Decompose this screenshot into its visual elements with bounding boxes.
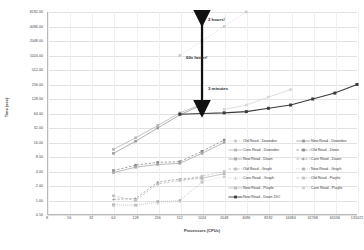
- data-point-marker: [302, 177, 305, 180]
- legend-label: New Read - Down: [243, 157, 273, 161]
- x-axis-tick-label: 64: [111, 216, 115, 220]
- annotation-three-minutes: 3 minutes: [208, 86, 228, 91]
- x-axis-tick-label: 512: [177, 216, 183, 220]
- legend-key-swatch: [296, 138, 311, 144]
- y-axis-tick-label: 2048.00: [30, 39, 43, 43]
- x-axis-tick-label: 32768: [308, 216, 318, 220]
- legend-key-swatch: [296, 156, 311, 162]
- legend-key-swatch: [296, 166, 311, 172]
- legend-row: New Read - PurpleCore Read - Purple: [228, 183, 364, 192]
- y-axis-tick-label: 4.00: [36, 170, 43, 174]
- data-point-marker: [234, 196, 237, 199]
- y-axis-tick-label: 1.00: [36, 199, 43, 203]
- x-axis-tick-label: 8192: [264, 216, 272, 220]
- legend-item[interactable]: New Read - Purple: [228, 185, 296, 191]
- y-axis-tick-label: 0.50: [36, 213, 43, 217]
- x-axis-tick-label: 131072: [351, 216, 363, 220]
- legend-item[interactable]: Core Read - Graph: [228, 175, 296, 181]
- data-point-marker: [302, 139, 305, 142]
- x-axis-tick-label: 4096: [242, 216, 250, 220]
- legend-key-swatch: [228, 156, 243, 162]
- x-axis-tick-label: 128: [132, 216, 138, 220]
- data-point-marker: [302, 149, 305, 152]
- x-axis-tick-label: 8: [46, 216, 48, 220]
- data-point-marker: [234, 167, 237, 170]
- legend-item[interactable]: New Read - Down: [228, 156, 296, 162]
- legend-item[interactable]: New Read - Downdev: [296, 138, 364, 144]
- y-axis-tick-label: 8.00: [36, 155, 43, 159]
- x-axis-title: Processors (CPUs): [47, 228, 357, 233]
- legend-item[interactable]: New Read - Graph: [296, 166, 364, 172]
- legend-label: Core Read - Downdev: [243, 148, 279, 152]
- legend-row: New Read - Down DIO: [228, 192, 364, 201]
- y-axis-tick-label: 512.00: [32, 68, 43, 72]
- legend-label: Old Read - Downdev: [243, 139, 277, 143]
- data-point-marker: [302, 186, 305, 189]
- x-axis-tick-label: 16: [67, 216, 71, 220]
- x-axis-tick-label: 65536: [330, 216, 340, 220]
- y-axis-tick-label: 128.00: [32, 97, 43, 101]
- legend-row: Core Read - DowndevOld Read - Down: [228, 145, 364, 154]
- legend-item[interactable]: Core Read - Down: [296, 156, 364, 162]
- legend-label: New Read - Purple: [243, 186, 274, 190]
- y-axis-tick-label: 4096.00: [30, 25, 43, 29]
- data-point-marker: [234, 158, 237, 161]
- x-axis-tick-label: 16384: [285, 216, 295, 220]
- legend-key-swatch: [296, 185, 311, 191]
- legend-label: New Read - Graph: [311, 167, 341, 171]
- legend-label: Old Read - Purple: [311, 176, 340, 180]
- y-axis-tick-label: 2.00: [36, 184, 43, 188]
- legend-key-swatch: [228, 138, 243, 144]
- legend-label: Core Read - Graph: [243, 176, 274, 180]
- data-point-marker: [234, 139, 237, 142]
- legend-label: Old Read - Graph: [243, 167, 272, 171]
- legend-key-swatch: [228, 147, 243, 153]
- y-axis-tick-label: 16.00: [34, 141, 43, 145]
- legend-label: New Read - Down DIO: [243, 195, 280, 199]
- legend-row: New Read - DownCore Read - Down: [228, 155, 364, 164]
- x-axis-tick-label: 1024: [198, 216, 206, 220]
- y-axis-title: Time (sec): [4, 85, 9, 131]
- x-axis-tick-label: 256: [155, 216, 161, 220]
- data-point-marker: [234, 149, 237, 152]
- legend-label: New Read - Downdev: [311, 139, 347, 143]
- data-point-marker: [302, 167, 305, 170]
- chart-root: 8192.004096.002048.001024.00512.00256.00…: [0, 0, 364, 250]
- legend-item[interactable]: Old Read - Down: [296, 147, 364, 153]
- legend-key-swatch: [296, 147, 311, 153]
- y-axis-tick-label: 32.00: [34, 126, 43, 130]
- data-point-marker: [234, 186, 237, 189]
- legend-item[interactable]: Core Read - Downdev: [228, 147, 296, 153]
- legend-item[interactable]: Core Read - Purple: [296, 185, 364, 191]
- legend-key-swatch: [228, 175, 243, 181]
- x-axis-tick-label: 32: [89, 216, 93, 220]
- legend-row: Old Read - GraphNew Read - Graph: [228, 164, 364, 173]
- legend-item[interactable]: New Read - Down DIO: [228, 194, 364, 200]
- data-point-marker: [302, 158, 305, 161]
- annotation-two-hours: 2 hours!: [208, 17, 225, 22]
- y-axis-tick-label: 1024.00: [30, 54, 43, 58]
- legend-row: Core Read - GraphOld Read - Purple: [228, 174, 364, 183]
- legend-key-swatch: [228, 166, 243, 172]
- legend-label: Core Read - Down: [311, 157, 341, 161]
- legend-row: Old Read - DowndevNew Read - Downdev: [228, 136, 364, 145]
- y-axis-tick-label: 8192.00: [30, 10, 43, 14]
- legend-key-swatch: [228, 194, 243, 200]
- chart-legend: Old Read - DowndevNew Read - DowndevCore…: [228, 136, 364, 202]
- y-axis-tick-label: 64.00: [34, 112, 43, 116]
- legend-key-swatch: [296, 175, 311, 181]
- legend-item[interactable]: Old Read - Purple: [296, 175, 364, 181]
- y-axis-tick-label: 256.00: [32, 83, 43, 87]
- x-axis-tick-label: 2048: [220, 216, 228, 220]
- data-point-marker: [234, 177, 237, 180]
- legend-item[interactable]: Old Read - Downdev: [228, 138, 296, 144]
- legend-key-swatch: [228, 185, 243, 191]
- legend-item[interactable]: Old Read - Graph: [228, 166, 296, 172]
- legend-label: Old Read - Down: [311, 148, 339, 152]
- x-axis-tick-labels: 8163264128256512102420484096819216384327…: [47, 216, 357, 228]
- annotation-speedup: 60x faster!: [186, 55, 208, 60]
- legend-label: Core Read - Purple: [311, 186, 342, 190]
